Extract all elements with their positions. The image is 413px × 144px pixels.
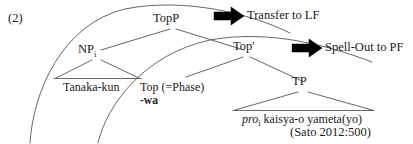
- node-np: NPi: [78, 43, 96, 56]
- operation-transfer-label: Transfer to LF: [247, 9, 319, 22]
- node-np-subscript: i: [94, 49, 96, 59]
- terminal-tp-rest: kaisya-o yameta(yo): [261, 112, 362, 126]
- branch-np-triangle-right: [101, 60, 139, 78]
- syntax-tree-figure: (2) TopP NPi Top' TP Tanaka-kun Top (=Ph…: [0, 0, 413, 144]
- branch-tp-triangle-right: [308, 92, 372, 110]
- right-block-arrow-icon: [292, 39, 322, 57]
- terminal-tp: proi kaisya-o yameta(yo): [242, 113, 362, 125]
- terminal-np: Tanaka-kun: [63, 81, 119, 93]
- branch-np-triangle-left: [56, 60, 92, 78]
- node-topbar: Top': [233, 40, 255, 53]
- node-topp: TopP: [153, 12, 179, 25]
- branch-topbar-top: [186, 57, 243, 77]
- spellout-arrow-group: [292, 39, 322, 57]
- node-topbar-label: Top': [233, 39, 255, 53]
- node-tp-label: TP: [292, 74, 307, 88]
- node-topp-label: TopP: [153, 11, 179, 25]
- operation-spellout-label: Spell-Out to PF: [325, 41, 404, 54]
- branch-tp-triangle-left: [235, 92, 298, 110]
- head-top-label: Top (=Phase): [140, 81, 204, 93]
- example-number: (2): [8, 12, 23, 25]
- terminal-tp-pro: pro: [242, 112, 258, 126]
- branch-topp-np: [101, 29, 170, 50]
- citation: (Sato 2012:500): [290, 126, 371, 139]
- node-np-label: NP: [78, 42, 94, 56]
- head-top-feature: -wa: [140, 95, 158, 107]
- node-tp: TP: [292, 75, 307, 88]
